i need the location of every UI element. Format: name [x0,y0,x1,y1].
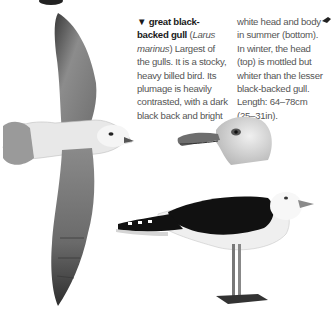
entry-text-column-1: ▼ great black-backed gull (Larus marinus… [137,15,229,122]
field-guide-page: ▼ great black-backed gull (Larus marinus… [0,0,331,332]
entry-marker: ▼ [137,16,146,27]
species-description-part-2: white head and body in summer (bottom). … [237,16,323,121]
partial-bird-fragment-illustration [38,0,64,6]
entry-text-column-2: white head and body in summer (bottom). … [237,15,325,122]
winter-head-illustration [176,110,276,170]
paren-close: ) [169,43,172,54]
standing-gull-illustration [108,184,316,309]
